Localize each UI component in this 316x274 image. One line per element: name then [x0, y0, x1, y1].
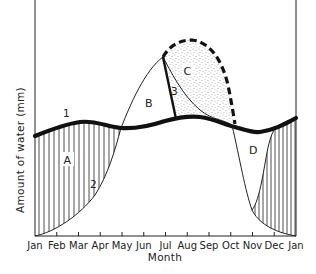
- x-axis-ticks: [57, 232, 275, 236]
- tick-label-sep: Sep: [200, 240, 219, 251]
- curve-2-label: 2: [90, 178, 97, 190]
- water-balance-diagram: 1 2 3 A B C D Jan Feb Mar Apr May Jun Ju…: [0, 0, 316, 274]
- region-a-label: A: [64, 154, 72, 167]
- curve-3-label: 3: [171, 85, 178, 97]
- x-axis-title: Month: [148, 251, 182, 263]
- y-axis-title: Amount of water (mm): [14, 87, 26, 213]
- tick-label-jan: Jan: [26, 240, 42, 251]
- tick-label-mar: Mar: [69, 240, 89, 251]
- tick-label-jan-end: Jan: [287, 240, 303, 251]
- curve-1-label: 1: [63, 107, 70, 119]
- x-axis-tick-labels: Jan Feb Mar Apr May Jun Jul Aug Sep Oct …: [26, 240, 303, 251]
- region-d-label: D: [249, 144, 257, 157]
- tick-label-dec: Dec: [265, 240, 284, 251]
- region-b-label: B: [145, 97, 153, 110]
- tick-label-oct: Oct: [222, 240, 239, 251]
- tick-label-may: May: [112, 240, 133, 251]
- tick-label-aug: Aug: [177, 240, 197, 251]
- tick-label-jun: Jun: [135, 240, 152, 251]
- tick-label-feb: Feb: [48, 240, 66, 251]
- tick-label-jul: Jul: [158, 240, 171, 251]
- region-c-label: C: [184, 65, 192, 78]
- tick-label-nov: Nov: [243, 240, 263, 251]
- tick-label-apr: Apr: [92, 240, 110, 251]
